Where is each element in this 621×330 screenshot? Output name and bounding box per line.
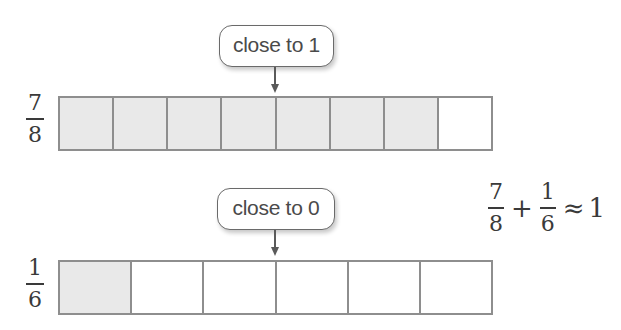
arrow-head-icon — [271, 247, 279, 256]
strip-cell-empty — [349, 262, 421, 313]
strip-cell-shaded — [222, 98, 276, 149]
arrow-head-icon — [271, 84, 279, 93]
denominator: 6 — [541, 212, 555, 236]
fraction-bar — [540, 207, 556, 209]
callout-close-to-1: close to 1 — [219, 25, 334, 67]
strip-cell-shaded — [60, 262, 132, 313]
strip-cell-shaded — [385, 98, 439, 149]
fraction-bar — [26, 118, 44, 120]
callout-close-to-0: close to 0 — [217, 188, 335, 230]
equation-term-1: 7 8 — [485, 180, 507, 236]
callout-label: close to 1 — [233, 33, 320, 56]
strip-cell-empty — [204, 262, 276, 313]
arrow-icon — [274, 230, 276, 248]
strip-cell-shaded — [114, 98, 168, 149]
fraction-bar — [488, 207, 504, 209]
fraction-strip-sixths — [58, 260, 493, 315]
strip-cell-shaded — [331, 98, 385, 149]
strip-cell-shaded — [60, 98, 114, 149]
strip-cell-shaded — [277, 98, 331, 149]
strip-cell-shaded — [168, 98, 222, 149]
callout-label: close to 0 — [233, 196, 320, 219]
strip-cell-empty — [132, 262, 204, 313]
numerator: 7 — [24, 91, 46, 115]
numerator: 1 — [24, 256, 46, 280]
fraction-label-seven-eighths: 7 8 — [24, 91, 46, 147]
equation-term-2: 1 6 — [537, 180, 559, 236]
denominator: 8 — [24, 123, 46, 147]
arrow-icon — [274, 67, 276, 85]
fraction-strip-eighths — [58, 96, 493, 151]
strip-cell-empty — [421, 262, 491, 313]
fraction-label-one-sixth: 1 6 — [24, 256, 46, 312]
denominator: 6 — [24, 288, 46, 312]
denominator: 8 — [489, 212, 503, 236]
fraction-bar — [26, 283, 44, 285]
numerator: 7 — [489, 180, 503, 204]
strip-cell-empty — [277, 262, 349, 313]
plus-operator: + — [507, 195, 537, 221]
strip-cell-empty — [439, 98, 491, 149]
approx-equal-operator: ≈ — [559, 195, 589, 221]
equation-result: 1 — [589, 195, 606, 221]
numerator: 1 — [541, 180, 555, 204]
estimate-equation: 7 8 + 1 6 ≈ 1 — [485, 180, 605, 236]
